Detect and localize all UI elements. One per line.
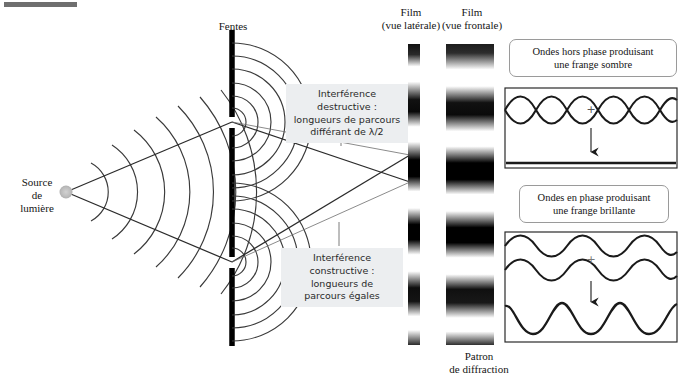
diffraction-pattern-label: Patron de diffraction [418,350,540,376]
callout-destructive-interference: Interférence destructive : longueurs de … [286,84,408,143]
plus-sign-bottom: + [586,253,595,266]
panel-out-of-phase: + [505,88,677,168]
legend-dark-fringe: Ondes hors phase produisant une frange s… [509,39,677,77]
legend-bright-fringe: Ondes en phase produisant une frange bri… [519,185,669,223]
callout-constructive-interference: Interférence constructive : longueurs de… [281,248,403,307]
film-frontal-label: Film (vue frontale) [432,6,512,32]
plus-sign-top: + [586,103,595,116]
panel-in-phase: + [505,232,677,342]
slits-label: Fentes [193,20,273,33]
source-label: Source de lumière [6,176,68,215]
diagram-canvas: + + Source de lumière Fentes Film (vue l… [0,0,683,392]
